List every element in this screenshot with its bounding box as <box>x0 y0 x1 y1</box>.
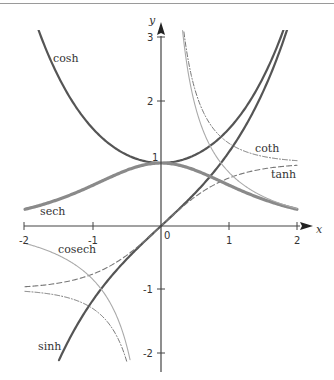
label-cosech: cosech <box>58 243 96 256</box>
y-axis-arrow-icon <box>157 22 165 35</box>
y-tick-label: 1 <box>152 152 158 163</box>
label-coth: coth <box>255 142 279 155</box>
x-tick-label: 1 <box>226 235 232 246</box>
x-tick-label: -2 <box>19 235 29 246</box>
label-sech: sech <box>40 205 65 218</box>
curve-cosech <box>183 31 297 209</box>
x-axis: x <box>24 222 323 236</box>
label-sinh: sinh <box>38 340 61 353</box>
x-tick-label: 2 <box>294 235 300 246</box>
y-tick-label: -2 <box>143 348 153 359</box>
hyperbolic-functions-plot: x y -2 -1 0 1 2 -2 -1 1 2 3 cosh sech co… <box>0 0 334 380</box>
label-tanh: tanh <box>271 168 296 181</box>
y-tick-label: 2 <box>147 96 153 107</box>
y-axis: y <box>148 14 165 372</box>
x-axis-label: x <box>316 223 323 236</box>
x-axis-arrow-icon <box>300 222 313 230</box>
y-axis-label: y <box>148 14 156 27</box>
y-tick-label: 3 <box>147 32 153 43</box>
y-ticks: -2 -1 1 2 3 <box>143 32 165 359</box>
origin-label: 0 <box>164 230 170 241</box>
label-cosh: cosh <box>53 52 79 65</box>
y-tick-label: -1 <box>143 284 153 295</box>
